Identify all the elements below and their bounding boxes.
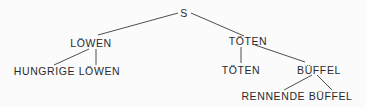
node-s: S	[180, 7, 188, 19]
edge-loewen-hungrige	[54, 49, 89, 65]
edge-s-toeten	[191, 13, 244, 36]
edge-bueffel-bueffel	[317, 75, 332, 90]
node-toeten-leaf: TÖTEN	[222, 64, 261, 76]
edge-toeten-bueffel	[255, 45, 305, 62]
node-bueffel: BÜFFEL	[297, 64, 341, 76]
syntax-tree-diagram: S LÖWEN HUNGRIGE LÖWEN TÖTEN TÖTEN BÜFFE…	[0, 0, 366, 107]
node-rennende-bueffel: RENNENDE BÜFFEL	[241, 90, 352, 102]
tree-svg: S LÖWEN HUNGRIGE LÖWEN TÖTEN TÖTEN BÜFFE…	[0, 0, 366, 107]
edge-bueffel-rennende	[284, 75, 312, 90]
edge-s-loewen	[98, 13, 178, 35]
node-loewen: LÖWEN	[70, 37, 112, 49]
node-toeten: TÖTEN	[229, 35, 268, 47]
node-hungrige-loewen: HUNGRIGE LÖWEN	[14, 65, 120, 77]
